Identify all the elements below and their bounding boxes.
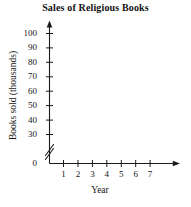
chart-figure: Sales of Religious Books [0, 0, 191, 207]
x-axis-arrow [173, 161, 180, 167]
x-axis-title: Year [40, 185, 160, 196]
x-tick-label-7: 7 [142, 170, 158, 179]
y-axis-arrow [47, 21, 53, 28]
y-axis-title: Books sold (thousands) [8, 26, 19, 166]
plot-area: 100 90 80 70 60 50 40 30 0 1 2 3 4 5 6 7 [0, 0, 191, 207]
